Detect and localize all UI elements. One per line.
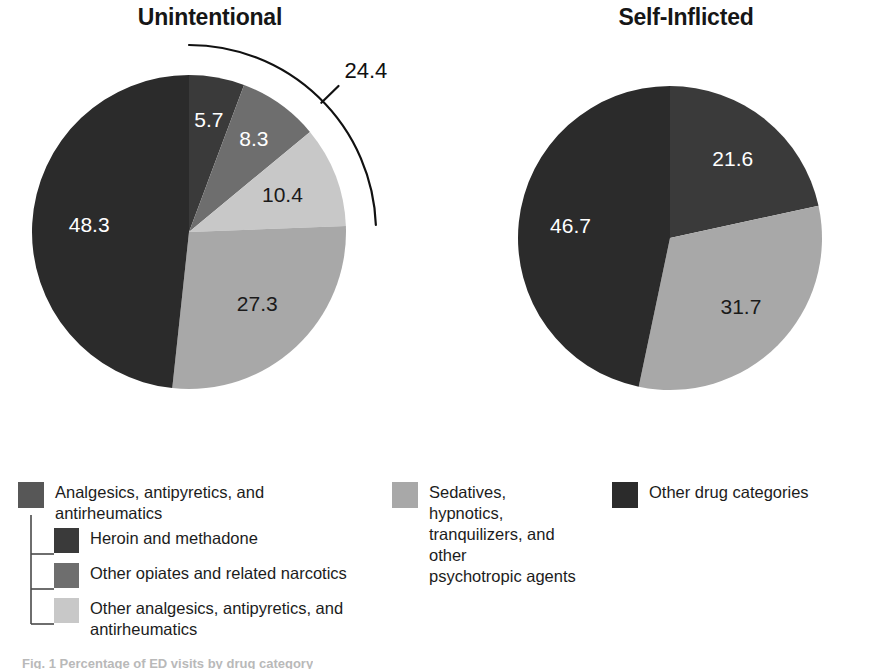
- legend-swatch-other-analgesics: [54, 598, 79, 623]
- pie-slice-value-label: 21.6: [712, 147, 753, 170]
- figure-caption: Fig. 1 Percentage of ED visits by drug c…: [22, 656, 313, 669]
- legend-swatch-sedatives: [392, 482, 418, 508]
- pie-chart-self-inflicted: 21.631.746.7: [518, 76, 836, 406]
- annotation-leader-line: [321, 86, 338, 103]
- legend-label-analgesics-parent: Analgesics, antipyretics, and antirheuma…: [55, 482, 264, 524]
- pie-svg-self-inflicted: 21.631.746.7: [518, 76, 836, 406]
- legend-item-other-analgesics[interactable]: Other analgesics, antipyretics, and anti…: [54, 598, 388, 640]
- legend-item-sedatives[interactable]: Sedatives, hypnotics, tranquilizers, and…: [392, 482, 582, 587]
- pie-slice: [32, 75, 189, 388]
- chart-title-unintentional: Unintentional: [0, 4, 420, 31]
- legend-label-other-opiates: Other opiates and related narcotics: [90, 563, 347, 584]
- legend-swatch-analgesics-parent: [18, 482, 44, 508]
- pie-svg-unintentional: 5.78.310.427.348.3 24.4: [24, 62, 354, 402]
- annotation-value-label: 24.4: [345, 58, 388, 83]
- legend-item-heroin-methadone[interactable]: Heroin and methadone: [54, 528, 258, 553]
- pie-chart-unintentional: 5.78.310.427.348.3 24.4: [24, 62, 354, 402]
- pie-slice-value-label: 27.3: [237, 292, 278, 315]
- pie-slice-value-label: 31.7: [720, 295, 761, 318]
- legend-item-other-opiates[interactable]: Other opiates and related narcotics: [54, 563, 347, 588]
- legend-swatch-other-opiates: [54, 563, 79, 588]
- legend-label-other-drug-categories: Other drug categories: [649, 482, 809, 503]
- chart-title-self-inflicted: Self-Inflicted: [476, 4, 896, 31]
- pie-slice: [518, 86, 670, 387]
- pie-slice-value-label: 48.3: [69, 213, 110, 236]
- legend-item-other-drug-categories[interactable]: Other drug categories: [612, 482, 809, 508]
- pie-slice-value-label: 8.3: [239, 127, 268, 150]
- chart-legend: Analgesics, antipyretics, and antirheuma…: [0, 482, 896, 642]
- pie-slice-value-label: 10.4: [262, 183, 303, 206]
- pie-slices-self-inflicted: [518, 86, 822, 390]
- legend-swatch-other-drug-categories: [612, 482, 638, 508]
- legend-label-other-analgesics: Other analgesics, antipyretics, and anti…: [90, 598, 388, 640]
- legend-label-sedatives: Sedatives, hypnotics, tranquilizers, and…: [429, 482, 582, 587]
- legend-label-heroin-methadone: Heroin and methadone: [90, 528, 258, 549]
- pie-slice-value-label: 5.7: [194, 108, 223, 131]
- pie-slice-value-label: 46.7: [550, 214, 591, 237]
- legend-swatch-heroin-methadone: [54, 528, 79, 553]
- legend-item-analgesics-parent[interactable]: Analgesics, antipyretics, and antirheuma…: [18, 482, 264, 524]
